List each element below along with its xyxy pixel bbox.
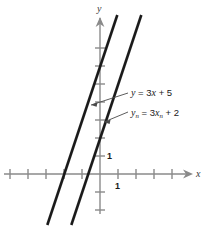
annotation-line2-tail: + 2	[163, 107, 179, 118]
y-axis-label: y	[96, 3, 102, 14]
annotation-line2-eq: = 3	[139, 107, 155, 118]
graph-svg: y x 1 1 y = 3x + 5 yn = 3xn + 2	[0, 0, 210, 234]
annotation-leader-line-1	[91, 93, 128, 107]
y-axis-group	[96, 17, 105, 214]
coordinate-graph-figure: y x 1 1 y = 3x + 5 yn = 3xn + 2	[0, 0, 210, 234]
annotation-line1-eq: = 3	[135, 87, 151, 98]
annotation-line1-equation: y = 3x + 5	[130, 87, 172, 98]
x-axis-group	[4, 170, 193, 179]
annotation-line2-equation: yn = 3xn + 2	[130, 107, 179, 119]
annotation-line1-tail: + 5	[156, 87, 172, 98]
y-unit-label: 1	[107, 151, 112, 161]
x-axis-label: x	[195, 168, 201, 179]
x-unit-label: 1	[115, 181, 120, 191]
